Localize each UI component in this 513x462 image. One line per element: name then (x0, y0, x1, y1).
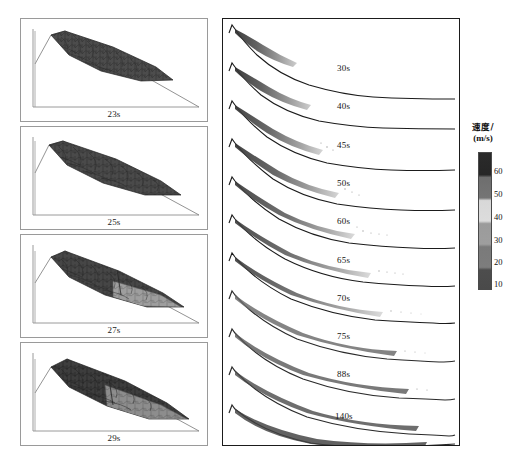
left-panel-time-label: 23s (21, 109, 207, 119)
right-panel-time-label-140s: 140s (335, 411, 353, 421)
left-panel-plot-27s (21, 235, 207, 337)
colorbar-tick-10: 10 (494, 280, 503, 289)
right-panel-time-label-45s: 45s (337, 140, 350, 150)
right-panel-time-label-30s: 30s (337, 63, 350, 73)
left-panel-plot-29s (21, 343, 207, 445)
colorbar-tick-40: 40 (494, 213, 503, 222)
colorbar-title-text: 速度/ (462, 122, 504, 133)
colorbar-tick-50: 50 (494, 190, 503, 199)
colorbar-tick-20: 20 (494, 258, 503, 267)
right-panel-time-label-65s: 65s (337, 255, 350, 265)
left-panel-plot-25s (21, 127, 207, 229)
velocity-colorbar: 速度/ (m/s) 60 50 40 30 20 10 (462, 122, 513, 302)
colorbar-gradient-strip (478, 152, 492, 290)
landslide-simulation-figure: 23s (0, 0, 513, 462)
left-panel-time-label: 25s (21, 217, 207, 227)
right-panel-time-label-50s: 50s (337, 178, 350, 188)
left-panel-25s: 25s (20, 126, 208, 230)
left-panel-column: 23s (20, 18, 208, 446)
left-panel-23s: 23s (20, 18, 208, 122)
colorbar-title: 速度/ (m/s) (462, 122, 504, 144)
colorbar-tick-60: 60 (494, 167, 503, 176)
right-panel-time-label-88s: 88s (337, 369, 350, 379)
left-panel-27s: 27s (20, 234, 208, 338)
right-panel-time-label-40s: 40s (337, 101, 350, 111)
colorbar-tick-30: 30 (494, 236, 503, 245)
left-panel-time-label: 27s (21, 325, 207, 335)
left-panel-29s: 29s (20, 342, 208, 446)
profile-trace-40s (229, 101, 455, 171)
left-panel-time-label: 29s (21, 433, 207, 443)
colorbar-unit-text: (m/s) (462, 133, 504, 144)
left-panel-plot-23s (21, 19, 207, 121)
runout-profile-plot (223, 19, 460, 446)
right-panel-time-label-60s: 60s (337, 216, 350, 226)
colorbar-tick-labels: 60 50 40 30 20 10 (494, 152, 513, 290)
right-panel-time-label-70s: 70s (337, 293, 350, 303)
right-panel-time-label-75s: 75s (337, 331, 350, 341)
right-panel-runout-profiles: 30s 40s 45s 50s 60s 65s 70s 75s 88s 140s (222, 18, 460, 446)
